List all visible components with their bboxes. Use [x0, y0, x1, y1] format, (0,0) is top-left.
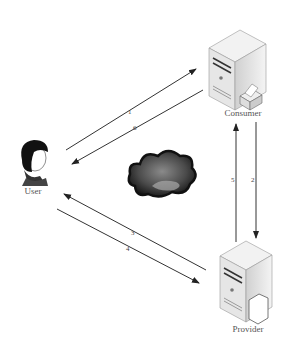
- edge-5: 5: [231, 124, 236, 242]
- edge-4: 4: [57, 209, 199, 283]
- user-person-icon: [21, 140, 48, 186]
- consumer-server-icon: [209, 30, 266, 110]
- diagram-canvas: 1 6 3 4 5 2: [0, 0, 289, 345]
- user-label: User: [13, 186, 53, 196]
- svg-text:3: 3: [131, 229, 135, 237]
- edge-1: 1: [66, 69, 196, 150]
- edge-2: 2: [251, 122, 256, 238]
- cloud-icon: [129, 151, 196, 197]
- provider-label: Provider: [220, 324, 276, 334]
- svg-text:4: 4: [126, 245, 130, 253]
- svg-text:5: 5: [231, 176, 235, 184]
- svg-text:6: 6: [133, 124, 137, 132]
- svg-text:2: 2: [251, 176, 255, 184]
- edge-6: 6: [72, 90, 203, 164]
- svg-text:1: 1: [128, 108, 132, 116]
- edge-3: 3: [64, 194, 206, 270]
- provider-server-icon: [220, 241, 272, 324]
- consumer-label: Consumer: [213, 108, 273, 118]
